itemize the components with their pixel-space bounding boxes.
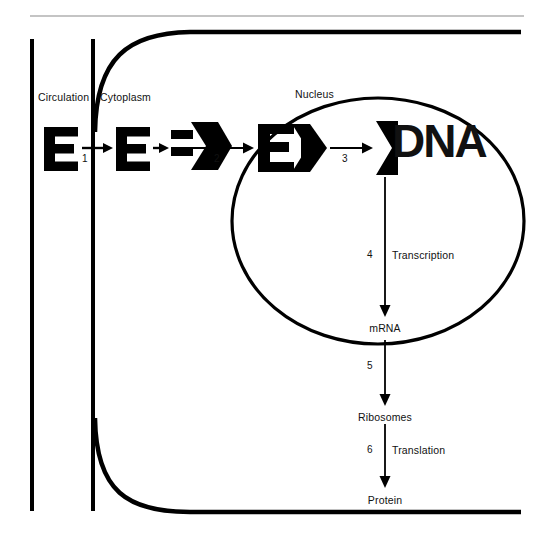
- label-ribosomes: Ribosomes: [358, 411, 412, 423]
- molecule-hormone-cytoplasm: [116, 127, 150, 171]
- diagram-canvas: DNA Circulation Cytoplasm Nucleus 1 2 3 …: [0, 0, 554, 540]
- molecule-hormone-receptor-nucleus: [258, 124, 327, 172]
- arrow-step-4-transcription: [380, 177, 391, 317]
- molecule-hormone-receptor-cytoplasm: [171, 122, 232, 170]
- arrow-step-6-translation: [380, 424, 391, 488]
- label-cytoplasm: Cytoplasm: [100, 91, 151, 103]
- label-circulation: Circulation: [38, 91, 89, 103]
- arrow-step-5: [380, 340, 391, 406]
- arrow-step-1: [82, 143, 113, 153]
- molecule-hormone-circulation: [44, 127, 78, 171]
- label-protein: Protein: [368, 494, 402, 506]
- cell-membrane-outline-bottom: [95, 418, 521, 512]
- arrow-step-2-binding: [153, 143, 169, 153]
- arrow-step-3: [330, 143, 373, 154]
- label-mrna: mRNA: [369, 322, 401, 334]
- label-nucleus: Nucleus: [295, 88, 334, 100]
- step-number-1: 1: [82, 153, 88, 164]
- step-label-transcription: Transcription: [392, 249, 454, 261]
- step-number-3: 3: [342, 153, 348, 164]
- diagram-vector-layer: [0, 0, 554, 540]
- step-label-translation: Translation: [392, 444, 445, 456]
- step-number-5: 5: [367, 360, 373, 371]
- step-number-4: 4: [367, 249, 373, 260]
- step-number-6: 6: [367, 444, 373, 455]
- step-number-2: 2: [214, 153, 220, 164]
- dna-label: DNA: [392, 118, 486, 164]
